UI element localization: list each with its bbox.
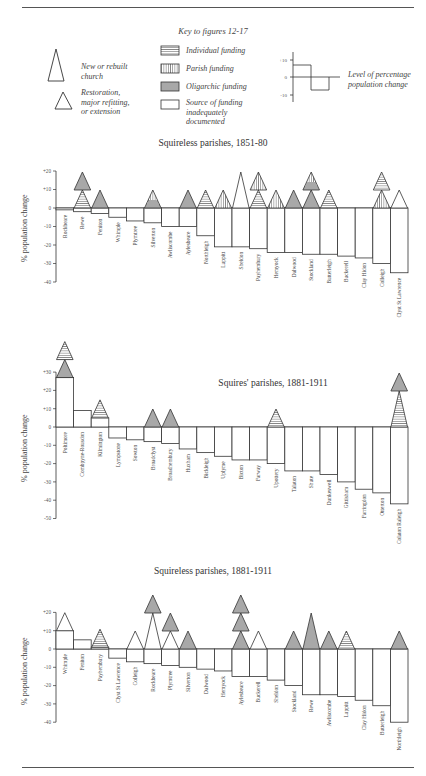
y-tick-label: +20 xyxy=(43,387,52,393)
category-label: Broadclyst xyxy=(150,446,156,470)
bar xyxy=(320,427,338,475)
category-label: Uplyme xyxy=(220,461,226,479)
church-triangle-icon xyxy=(180,190,197,208)
bar xyxy=(56,208,74,210)
bar xyxy=(338,427,356,482)
church-triangle-icon xyxy=(233,172,250,208)
category-label: Buckerell xyxy=(343,261,349,282)
category-label: Otterton xyxy=(379,498,385,516)
category-label: Colaton Raleigh xyxy=(396,509,402,544)
bar xyxy=(320,649,338,695)
y-tick-label: -20 xyxy=(44,682,51,688)
bar xyxy=(302,427,320,471)
y-tick-label: 0 xyxy=(48,646,51,652)
bar xyxy=(232,427,250,460)
bar xyxy=(126,427,144,440)
bar xyxy=(355,208,373,258)
category-label: Dalwood xyxy=(203,674,209,694)
category-label: Colleigh xyxy=(132,667,138,686)
category-label: Shute xyxy=(308,475,314,488)
y-tick-label: +10 xyxy=(43,186,52,192)
chart-3: +20+100-10-20-30-40WhimpleFenitonPayhemb… xyxy=(43,595,408,751)
church-triangle-icon xyxy=(250,190,267,208)
category-label: Poltimore xyxy=(62,431,68,453)
bar xyxy=(197,427,215,453)
charts-graphics: +20+100-10-20-30-40RockbeareReweFenitonW… xyxy=(0,0,426,776)
category-label: Payhembury xyxy=(97,654,103,682)
category-label: Lympstone xyxy=(115,442,121,467)
bar xyxy=(285,649,303,686)
bar xyxy=(126,208,144,221)
church-triangle-icon xyxy=(145,613,162,649)
category-label: Clyst St Lawrence xyxy=(396,277,402,317)
bar xyxy=(390,208,408,273)
church-triangle-icon xyxy=(92,629,109,647)
bar xyxy=(109,208,127,217)
bar xyxy=(91,418,109,427)
church-triangle-icon xyxy=(162,409,179,427)
bar xyxy=(285,427,303,471)
category-label: Feniton xyxy=(97,218,103,235)
chart-2: +30+20+100-10-20-30-40-50PoltimoreCombpy… xyxy=(43,342,408,544)
bar xyxy=(390,649,408,722)
bar xyxy=(162,649,180,665)
bar xyxy=(56,378,74,427)
bar xyxy=(162,427,180,443)
bar xyxy=(267,427,285,464)
y-tick-label: -50 xyxy=(44,515,51,521)
bar xyxy=(197,649,215,669)
bar xyxy=(250,208,268,249)
y-tick-label: -40 xyxy=(44,279,51,285)
church-triangle-icon xyxy=(373,190,390,208)
category-label: Luppitt xyxy=(220,251,226,267)
y-tick-label: +30 xyxy=(43,369,52,375)
church-triangle-icon xyxy=(391,190,408,208)
church-triangle-icon xyxy=(74,172,91,190)
church-triangle-icon xyxy=(197,190,214,208)
church-triangle-icon xyxy=(145,409,162,427)
category-label: Silverton xyxy=(150,227,156,247)
y-tick-label: 0 xyxy=(48,424,51,430)
bar xyxy=(74,411,92,427)
y-tick-label: -30 xyxy=(44,701,51,707)
category-label: Stockland xyxy=(308,259,314,281)
bar xyxy=(56,631,74,649)
church-triangle-icon xyxy=(92,190,109,208)
church-triangle-icon xyxy=(233,631,250,649)
church-triangle-icon xyxy=(162,631,179,649)
y-tick-label: -30 xyxy=(44,479,51,485)
church-triangle-icon xyxy=(321,631,338,649)
bar xyxy=(74,208,92,212)
y-tick-label: -40 xyxy=(44,719,51,725)
category-label: Butterleigh xyxy=(326,259,332,284)
bar xyxy=(250,649,268,676)
bar xyxy=(373,208,391,264)
church-triangle-icon xyxy=(268,190,285,208)
church-triangle-icon xyxy=(373,172,390,190)
y-tick-label: +20 xyxy=(43,609,52,615)
bar xyxy=(109,649,127,658)
y-tick-label: +10 xyxy=(43,628,52,634)
bottom-rule xyxy=(22,767,414,768)
category-label: Kilmington xyxy=(97,432,103,457)
church-triangle-icon xyxy=(145,595,162,613)
category-label: Sheldon xyxy=(238,252,244,270)
bar xyxy=(267,649,285,680)
category-label: Awliscombe xyxy=(326,699,332,726)
church-triangle-icon xyxy=(321,190,338,208)
y-tick-label: +20 xyxy=(43,168,52,174)
bar xyxy=(373,427,391,493)
category-label: Upottery xyxy=(273,468,279,487)
bar xyxy=(302,649,320,695)
bar xyxy=(355,427,373,489)
bar xyxy=(338,208,356,256)
bar xyxy=(232,649,250,676)
bar xyxy=(338,649,356,697)
category-label: Luppitt xyxy=(343,701,349,717)
bar xyxy=(74,640,92,649)
category-label: Combpyne-Rousdon xyxy=(79,432,85,477)
bar xyxy=(373,649,391,706)
category-label: Whimple xyxy=(62,653,68,674)
category-label: Sheldon xyxy=(273,685,279,703)
bar xyxy=(144,649,162,664)
